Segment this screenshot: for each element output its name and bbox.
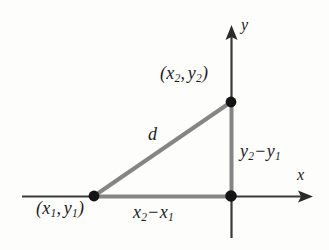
point-1-label-varx: x [42, 198, 50, 218]
point-2-label: (x2,y2) [160, 64, 208, 82]
point-2-dot [226, 97, 237, 108]
point-2-label-vary: y [188, 63, 196, 83]
point-1-label: (x1,y1) [36, 199, 84, 217]
vertical-leg-minuend: y [240, 141, 248, 161]
horizontal-leg-subtrahend: x [160, 202, 168, 222]
right-angle-corner-dot [225, 190, 237, 202]
horizontal-leg-subtrahend-sub: 1 [168, 211, 174, 223]
horizontal-leg-minuend: x [133, 202, 141, 222]
point-2-label-comma: , [180, 63, 187, 83]
hypotenuse-segment [94, 102, 231, 196]
vertical-leg-subtrahend: y [267, 141, 275, 161]
vertical-leg-label: y2−y1 [240, 142, 281, 160]
point-2-label-varx: x [166, 63, 174, 83]
x-axis-label: x [297, 167, 304, 183]
vertical-leg-subtrahend-sub: 1 [275, 150, 281, 162]
horizontal-leg-label: x2−x1 [133, 203, 174, 221]
point-1-label-close: ) [78, 198, 84, 218]
vertical-leg-operator: − [254, 141, 267, 161]
y-axis-label: y [241, 17, 248, 33]
distance-formula-figure: (x2,y2) (x1,y1) x2−x1 y2−y1 d y x [0, 0, 329, 250]
point-1-dot [89, 191, 100, 202]
hypotenuse-label: d [148, 125, 157, 143]
point-1-label-comma: , [56, 198, 63, 218]
point-2-label-close: ) [202, 63, 208, 83]
point-1-label-vary: y [64, 198, 72, 218]
horizontal-leg-operator: − [147, 202, 160, 222]
